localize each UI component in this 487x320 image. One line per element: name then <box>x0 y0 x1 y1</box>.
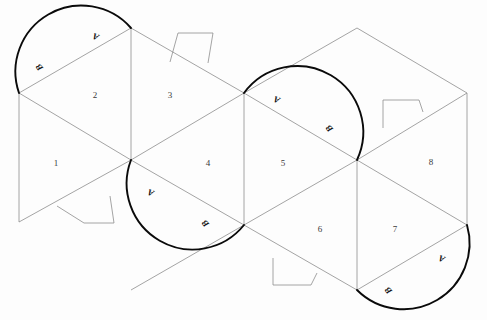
arc-middle-left <box>127 160 244 250</box>
face-label-8: 8 <box>429 157 434 167</box>
face-label-6: 6 <box>318 224 323 234</box>
fold-top-right-segment <box>357 28 467 93</box>
arc-bottom-right <box>357 225 470 309</box>
net-diagram-canvas: 1 2 3 4 5 6 7 8 A B A B A B A B <box>0 0 487 320</box>
face-label-7: 7 <box>393 224 398 234</box>
arc-top-left <box>15 6 131 93</box>
arc-label-a-bottom-right: A <box>437 253 447 265</box>
arc-label-a-middle-left: A <box>146 187 156 199</box>
face-label-2: 2 <box>93 90 98 100</box>
arc-label-b-top-right: B <box>324 123 336 135</box>
face-label-3: 3 <box>168 90 173 100</box>
fold-lines-group <box>19 28 467 290</box>
arc-label-b-bottom-right: B <box>383 285 395 297</box>
face-label-1: 1 <box>54 158 59 168</box>
arc-label-a-top-left: A <box>91 31 101 43</box>
fold-bottom-row <box>131 225 467 290</box>
net-diagram-svg: 1 2 3 4 5 6 7 8 A B A B A B A B <box>0 0 487 320</box>
arc-label-b-middle-left: B <box>200 218 212 230</box>
arc-label-a-top-right: A <box>272 94 282 106</box>
arc-letter-labels: A B A B A B A B <box>33 31 447 297</box>
tab-top-middle <box>170 33 213 63</box>
face-label-4: 4 <box>206 158 211 168</box>
face-label-5: 5 <box>281 158 286 168</box>
fold-lower-row <box>19 160 467 225</box>
tab-bottom-middle <box>273 258 317 285</box>
arc-top-right <box>244 66 363 160</box>
arc-label-b-top-left: B <box>33 62 45 74</box>
tab-bottom-left <box>57 196 114 223</box>
fold-upper-row-top <box>19 28 357 93</box>
glue-tabs-group <box>57 33 423 285</box>
fold-middle-row <box>19 93 467 160</box>
